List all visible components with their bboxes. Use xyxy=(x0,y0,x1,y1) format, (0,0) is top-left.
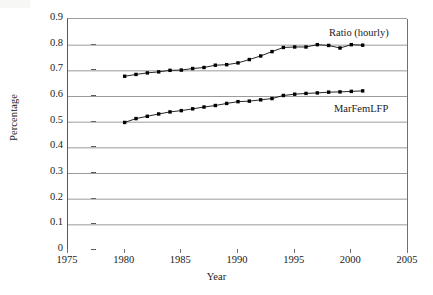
data-point-marker xyxy=(361,43,364,46)
data-point-marker xyxy=(225,102,228,105)
data-point-marker xyxy=(248,99,251,102)
data-point-marker xyxy=(191,107,194,110)
x-tick-label: 1995 xyxy=(272,254,316,265)
y-tick-label: 0 xyxy=(31,243,63,253)
data-point-marker xyxy=(134,117,137,120)
y-axis-title: Percentage xyxy=(8,58,19,178)
data-point-marker xyxy=(316,43,319,46)
data-point-marker xyxy=(361,89,364,92)
data-point-marker xyxy=(134,73,137,76)
data-point-marker xyxy=(214,64,217,67)
x-tick-mark xyxy=(67,249,68,253)
x-tick-label: 1980 xyxy=(102,254,146,265)
data-point-marker xyxy=(282,94,285,97)
data-point-marker xyxy=(338,90,341,93)
y-tick-label: 0.9 xyxy=(31,12,63,22)
data-point-marker xyxy=(293,93,296,96)
data-point-marker xyxy=(202,105,205,108)
x-tick-mark xyxy=(237,249,238,253)
y-tick-label: 0.7 xyxy=(31,63,63,73)
series-label-ratio-hourly: Ratio (hourly) xyxy=(329,27,389,38)
plot-canvas xyxy=(68,19,408,250)
data-point-marker xyxy=(338,46,341,49)
data-point-marker xyxy=(202,66,205,69)
data-series-layer xyxy=(123,43,364,124)
data-point-marker xyxy=(180,109,183,112)
y-tick-label: 0.8 xyxy=(31,38,63,48)
scan-artifact xyxy=(0,0,30,8)
data-point-marker xyxy=(225,63,228,66)
x-tick-mark xyxy=(124,249,125,253)
data-point-marker xyxy=(350,90,353,93)
data-point-marker xyxy=(236,61,239,64)
data-point-marker xyxy=(168,69,171,72)
data-point-marker xyxy=(236,100,239,103)
data-point-marker xyxy=(316,91,319,94)
x-tick-label: 2005 xyxy=(385,254,429,265)
y-tick-label: 0.5 xyxy=(31,115,63,125)
y-tick-label: 0.3 xyxy=(31,166,63,176)
data-point-marker xyxy=(304,45,307,48)
data-point-marker xyxy=(282,46,285,49)
x-tick-label: 1990 xyxy=(215,254,259,265)
data-point-marker xyxy=(146,71,149,74)
data-point-marker xyxy=(327,90,330,93)
data-point-marker xyxy=(248,58,251,61)
data-point-marker xyxy=(350,43,353,46)
data-point-marker xyxy=(180,68,183,71)
data-point-marker xyxy=(304,92,307,95)
data-point-marker xyxy=(168,110,171,113)
x-tick-label: 2000 xyxy=(328,254,372,265)
x-tick-label: 1975 xyxy=(45,254,89,265)
data-point-marker xyxy=(157,112,160,115)
data-point-marker xyxy=(270,97,273,100)
series-marfemlfp xyxy=(123,89,364,124)
x-axis-title: Year xyxy=(0,271,433,282)
series-line xyxy=(125,91,363,123)
data-point-marker xyxy=(146,115,149,118)
data-point-marker xyxy=(191,67,194,70)
data-point-marker xyxy=(293,45,296,48)
x-tick-mark xyxy=(350,249,351,253)
data-point-marker xyxy=(259,54,262,57)
y-tick-label: 0.1 xyxy=(31,217,63,227)
y-tick-label: 0.4 xyxy=(31,140,63,150)
series-label-marfemlfp: MarFemLFP xyxy=(334,103,388,114)
data-point-marker xyxy=(214,104,217,107)
chart-figure: 00.10.20.30.40.50.60.70.80.9 Percentage … xyxy=(0,0,433,295)
plot-area xyxy=(67,18,407,249)
y-tick-label: 0.6 xyxy=(31,89,63,99)
data-point-marker xyxy=(123,75,126,78)
x-tick-mark xyxy=(407,249,408,253)
data-point-marker xyxy=(270,50,273,53)
data-point-marker xyxy=(327,44,330,47)
gridlines xyxy=(68,19,408,250)
y-tick-label: 0.2 xyxy=(31,192,63,202)
data-point-marker xyxy=(157,70,160,73)
data-point-marker xyxy=(259,98,262,101)
series-ratio-hourly xyxy=(123,43,364,78)
x-tick-mark xyxy=(294,249,295,253)
x-tick-mark xyxy=(180,249,181,253)
data-point-marker xyxy=(123,121,126,124)
y-axis-ticks: 00.10.20.30.40.50.60.70.80.9 xyxy=(28,0,63,295)
x-tick-label: 1985 xyxy=(158,254,202,265)
